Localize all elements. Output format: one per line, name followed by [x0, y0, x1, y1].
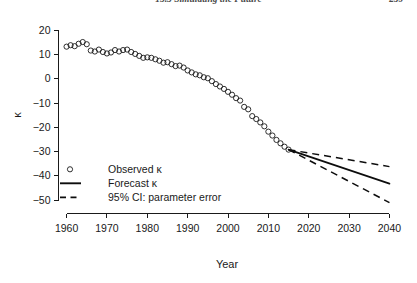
x-tick-label: 1980 [136, 222, 160, 234]
observed-point [238, 98, 243, 103]
y-tick-label: −40 [33, 169, 51, 181]
y-tick-label: −20 [33, 121, 51, 133]
y-tick-label: 10 [39, 48, 51, 60]
legend-label: 95% CI: parameter error [108, 191, 222, 203]
observed-point [262, 124, 267, 129]
y-tick-label: −50 [33, 194, 51, 206]
y-tick-labels: 20100−10−20−30−40−50 [33, 24, 51, 206]
legend-marker-observed [67, 167, 72, 172]
legend-label: Observed κ [108, 163, 162, 175]
x-tick-label: 2020 [297, 222, 321, 234]
x-tick-labels: 196019701980199020002010202020302040 [55, 222, 401, 234]
x-tick-label: 2000 [216, 222, 240, 234]
observed-point [84, 42, 89, 47]
figure-page: 15.3 Simulating the Future 259 20100−10−… [0, 0, 417, 283]
y-axis-title: κ [11, 112, 23, 118]
x-tick-label: 1960 [55, 222, 79, 234]
x-tick-marks [67, 214, 390, 219]
x-tick-label: 1970 [95, 222, 119, 234]
chart-svg: 20100−10−20−30−40−50 1960197019801990200… [0, 0, 417, 283]
y-tick-label: 20 [39, 24, 51, 36]
forecast-path [289, 150, 390, 184]
observed-point [270, 133, 275, 138]
observed-point [246, 107, 251, 112]
legend-label: Forecast κ [108, 177, 158, 189]
x-axis-title: Year [216, 258, 239, 270]
x-tick-label: 2040 [378, 222, 402, 234]
x-tick-label: 2010 [257, 222, 281, 234]
y-tick-label: −10 [33, 97, 51, 109]
x-tick-label: 2030 [337, 222, 361, 234]
x-tick-label: 1990 [176, 222, 200, 234]
kappa-forecast-chart: 20100−10−20−30−40−50 1960197019801990200… [0, 0, 417, 283]
y-tick-label: 0 [45, 72, 51, 84]
observed-points [64, 39, 291, 152]
forecast-line [289, 150, 390, 184]
y-tick-label: −30 [33, 145, 51, 157]
chart-legend: Observed κForecast κ95% CI: parameter er… [60, 163, 222, 203]
y-tick-marks [54, 30, 59, 200]
